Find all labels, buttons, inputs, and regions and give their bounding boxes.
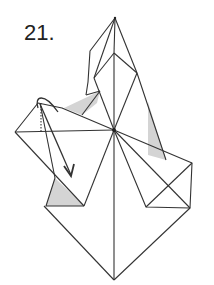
center-point — [112, 128, 116, 132]
crease-lines — [15, 18, 192, 280]
origami-diagram — [0, 0, 214, 285]
apex-point — [114, 17, 116, 19]
